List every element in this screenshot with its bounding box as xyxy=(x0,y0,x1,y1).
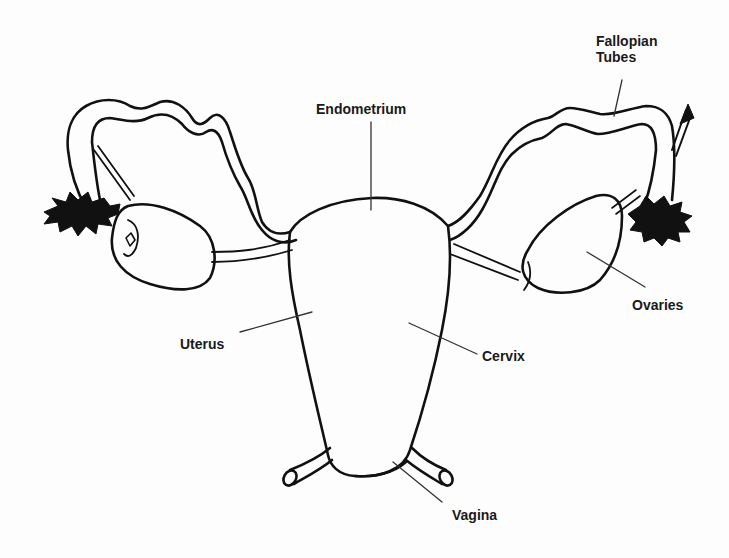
label-vagina: Vagina xyxy=(452,507,497,523)
label-fallopian-line1: Fallopian xyxy=(596,33,657,49)
left-fimbriae xyxy=(44,192,120,236)
uterus-outline xyxy=(289,198,450,476)
uterus-leader xyxy=(240,312,312,332)
left-ligament xyxy=(94,146,134,200)
right-ovary-outline xyxy=(523,195,622,293)
label-cervix: Cervix xyxy=(482,348,525,364)
diagram-drawing xyxy=(0,0,729,558)
ovaries-leader xyxy=(587,252,645,287)
label-ovaries: Ovaries xyxy=(632,297,683,313)
label-uterus: Uterus xyxy=(180,336,224,352)
right-fallopian-tube-inner xyxy=(450,124,656,240)
label-endometrium: Endometrium xyxy=(316,101,406,117)
right-fimbriae xyxy=(628,196,692,246)
label-fallopian-tubes: Fallopian Tubes xyxy=(596,33,657,65)
right-tube-tip xyxy=(680,104,694,124)
anatomy-diagram: Fallopian Tubes Endometrium Ovaries Uter… xyxy=(0,0,729,558)
left-ovary-outline xyxy=(112,204,215,289)
label-fallopian-line2: Tubes xyxy=(596,49,657,65)
